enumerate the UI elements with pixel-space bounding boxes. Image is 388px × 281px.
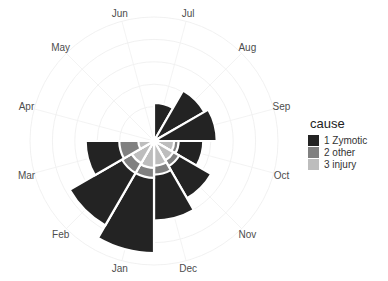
- legend-item-injury: 3 injury: [308, 159, 367, 170]
- month-label-jan: Jan: [112, 263, 128, 274]
- grid-spoke: [66, 53, 154, 141]
- legend-label: 1 Zymotic: [324, 135, 367, 146]
- legend: cause 1 Zymotic 2 other 3 injury: [308, 116, 367, 171]
- month-label-feb: Feb: [52, 229, 70, 240]
- legend-item-other: 2 other: [308, 147, 367, 158]
- legend-label: 3 injury: [324, 159, 356, 170]
- month-label-may: May: [51, 42, 70, 53]
- month-label-oct: Oct: [274, 170, 290, 181]
- wedge-jun: [153, 140, 154, 141]
- month-label-jun: Jun: [112, 8, 128, 19]
- legend-label: 2 other: [324, 147, 355, 158]
- month-label-apr: Apr: [19, 101, 35, 112]
- month-label-aug: Aug: [238, 42, 256, 53]
- legend-swatch: [308, 147, 319, 158]
- legend-swatch: [308, 159, 319, 170]
- month-label-dec: Dec: [179, 263, 197, 274]
- month-label-nov: Nov: [238, 229, 256, 240]
- legend-item-zymotic: 1 Zymotic: [308, 135, 367, 146]
- legend-title: cause: [310, 116, 367, 131]
- month-label-jul: Jul: [182, 8, 195, 19]
- month-label-mar: Mar: [18, 170, 36, 181]
- month-label-sep: Sep: [273, 101, 291, 112]
- legend-swatch: [308, 135, 319, 146]
- wedges: [70, 91, 217, 253]
